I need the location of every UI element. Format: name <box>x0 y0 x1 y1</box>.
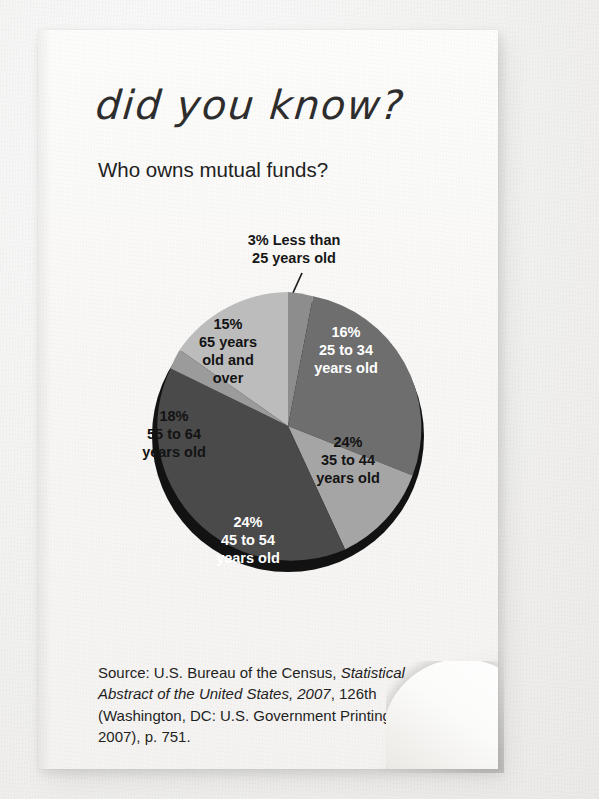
slice-label-percent: 16% <box>300 324 392 342</box>
callout-line-1: 3% Less than <box>206 232 382 250</box>
subheading: Who owns mutual funds? <box>98 158 328 182</box>
slice-label-25-34: 16% 25 to 34 years old <box>300 324 392 378</box>
slice-label-range: 55 to 64 <box>124 426 224 444</box>
slice-label-unit: years old <box>296 470 400 488</box>
content-sheet: did you know? Who owns mutual funds? 3% … <box>38 30 498 769</box>
sheet-left-edge-shadow <box>38 30 52 769</box>
slice-label-55-64: 18% 55 to 64 years old <box>124 408 224 462</box>
slice-label-line-2: 65 years <box>180 334 276 352</box>
slice-label-unit: years old <box>124 444 224 462</box>
slice-label-percent: 18% <box>124 408 224 426</box>
slice-label-45-54: 24% 45 to 54 years old <box>198 514 298 568</box>
source-part-1: Source: U.S. Bureau of the Census, <box>98 664 341 681</box>
slice-label-35-44: 24% 35 to 44 years old <box>296 434 400 488</box>
headline: did you know? <box>94 82 407 128</box>
pie-chart: 16% 25 to 34 years old 24% 35 to 44 year… <box>146 282 430 630</box>
callout-label-less-than-25: 3% Less than 25 years old <box>206 232 382 267</box>
slice-label-percent: 15% <box>180 316 276 334</box>
slice-label-percent: 24% <box>198 514 298 532</box>
source-citation: Source: U.S. Bureau of the Census, Stati… <box>98 662 458 747</box>
slice-label-range: 45 to 54 <box>198 532 298 550</box>
slice-label-line-3: old and <box>180 352 276 370</box>
slice-label-line-4: over <box>180 370 276 388</box>
slice-label-unit: years old <box>198 550 298 568</box>
slice-label-percent: 24% <box>296 434 400 452</box>
callout-line-2: 25 years old <box>206 250 382 268</box>
page-background: did you know? Who owns mutual funds? 3% … <box>0 0 599 799</box>
slice-label-range: 35 to 44 <box>296 452 400 470</box>
slice-label-unit: years old <box>300 360 392 378</box>
slice-label-65-over: 15% 65 years old and over <box>180 316 276 388</box>
slice-label-range: 25 to 34 <box>300 342 392 360</box>
